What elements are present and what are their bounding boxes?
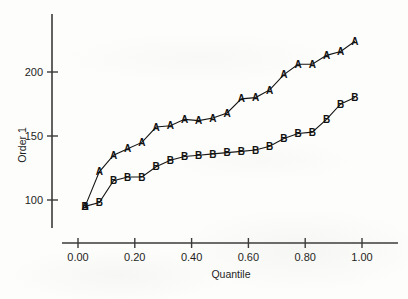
x-axis: 0.000.200.400.600.801.00 — [62, 238, 398, 263]
data-point-marker-a: A — [266, 85, 273, 96]
data-point-marker-a: A — [124, 143, 131, 154]
data-point-marker-a: A — [181, 114, 188, 125]
x-tick-label: 0.20 — [124, 251, 145, 263]
data-point-marker-b: B — [181, 151, 188, 162]
data-point-marker-a: A — [138, 137, 145, 148]
data-point-marker-b: B — [309, 127, 316, 138]
data-point-marker-a: A — [252, 92, 259, 103]
data-point-marker-b: B — [323, 114, 330, 125]
data-point-marker-a: A — [96, 166, 103, 177]
data-point-marker-b: B — [152, 161, 159, 172]
x-tick-group: 0.000.200.400.600.801.00 — [67, 238, 372, 263]
data-point-marker-b: B — [294, 128, 301, 139]
data-point-marker-b: B — [209, 149, 216, 160]
y-tick-label: 200 — [25, 66, 43, 78]
data-point-marker-a: A — [209, 113, 216, 124]
data-point-marker-b: B — [81, 201, 88, 212]
data-point-marker-b: B — [351, 92, 358, 103]
data-point-marker-b: B — [238, 146, 245, 157]
data-point-marker-a: A — [195, 115, 202, 126]
data-point-marker-a: A — [337, 46, 344, 57]
data-point-marker-b: B — [110, 175, 117, 186]
data-point-marker-b: B — [266, 141, 273, 152]
series-layer: AAAAAAAAAAAAAAAAAAAABBBBBBBBBBBBBBBBBBBB — [81, 36, 358, 212]
x-axis-title: Quantile — [211, 268, 250, 280]
y-axis: 100150200 — [25, 14, 58, 228]
series-b: BBBBBBBBBBBBBBBBBBBB — [81, 92, 358, 212]
data-point-marker-a: A — [280, 69, 287, 80]
x-tick-label: 0.00 — [67, 251, 88, 263]
chart-figure: 100150200 0.000.200.400.600.801.00 AAAAA… — [0, 0, 408, 299]
x-tick-label: 0.80 — [294, 251, 315, 263]
data-point-marker-a: A — [152, 122, 159, 133]
data-point-marker-b: B — [252, 145, 259, 156]
data-point-marker-a: A — [294, 59, 301, 70]
data-point-marker-a: A — [309, 59, 316, 70]
data-point-marker-b: B — [223, 147, 230, 158]
x-tick-label: 1.00 — [351, 251, 372, 263]
data-point-marker-b: B — [195, 150, 202, 161]
x-tick-label: 0.40 — [181, 251, 202, 263]
data-point-marker-b: B — [138, 172, 145, 183]
data-point-marker-b: B — [337, 99, 344, 110]
series-a: AAAAAAAAAAAAAAAAAAAA — [81, 36, 358, 212]
data-point-marker-a: A — [351, 36, 358, 47]
data-point-marker-b: B — [280, 133, 287, 144]
data-point-marker-b: B — [167, 155, 174, 166]
y-tick-label: 100 — [25, 194, 43, 206]
y-tick-group: 100150200 — [25, 66, 58, 206]
data-point-marker-a: A — [223, 108, 230, 119]
qq-plot-svg: 100150200 0.000.200.400.600.801.00 AAAAA… — [0, 0, 408, 299]
data-point-marker-a: A — [110, 150, 117, 161]
data-point-marker-b: B — [124, 172, 131, 183]
y-axis-title: Order 1 — [16, 127, 28, 163]
data-point-marker-a: A — [238, 93, 245, 104]
data-point-marker-a: A — [323, 50, 330, 61]
data-point-marker-a: A — [167, 120, 174, 131]
x-tick-label: 0.60 — [238, 251, 259, 263]
data-point-marker-b: B — [96, 197, 103, 208]
